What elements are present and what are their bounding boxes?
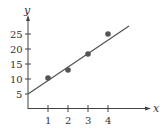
data-point bbox=[105, 31, 111, 37]
y-tick-label: 5 bbox=[16, 89, 22, 100]
y-tick-label: 10 bbox=[10, 74, 23, 85]
y-tick-label: 20 bbox=[10, 44, 23, 55]
y-tick-label: 15 bbox=[10, 59, 23, 70]
scatter-chart: y x 1 2 3 4 25 20 15 10 5 bbox=[0, 0, 164, 137]
data-points bbox=[45, 31, 111, 81]
x-tick-label: 3 bbox=[85, 115, 91, 126]
x-tick-label: 2 bbox=[65, 115, 71, 126]
fit-line bbox=[28, 26, 129, 94]
y-tick-label: 25 bbox=[10, 29, 23, 40]
y-axis-label: y bbox=[23, 4, 31, 17]
data-point bbox=[85, 51, 91, 57]
data-point bbox=[65, 67, 71, 73]
x-axis-arrow-icon bbox=[145, 107, 151, 111]
data-point bbox=[45, 75, 51, 81]
x-tick-label: 4 bbox=[105, 115, 111, 126]
x-tick-label: 1 bbox=[45, 115, 51, 126]
x-axis-label: x bbox=[153, 102, 160, 115]
